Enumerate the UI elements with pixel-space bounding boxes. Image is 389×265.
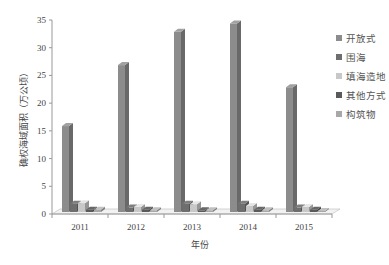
legend-label: 填海造地 — [346, 69, 386, 83]
legend-item: 填海造地 — [336, 66, 386, 85]
legend-swatch-icon — [336, 35, 342, 41]
x-tick-label: 2012 — [127, 222, 145, 232]
bar — [286, 84, 297, 212]
legend-swatch-icon — [336, 73, 342, 79]
legend-item: 开放式 — [336, 28, 386, 47]
legend-swatch-icon — [336, 54, 342, 60]
y-tick-label: 5 — [42, 181, 47, 191]
legend-label: 其他方式 — [346, 88, 386, 102]
bar — [174, 29, 185, 212]
x-tick-label: 2013 — [183, 222, 202, 232]
legend-label: 围海 — [346, 50, 366, 64]
y-axis-title: 确权海域面积（万公顷） — [18, 68, 29, 167]
x-axis-title: 年份 — [191, 239, 209, 250]
x-tick-label: 2011 — [71, 222, 89, 232]
y-tick-label: 15 — [37, 126, 47, 136]
y-tick-label: 0 — [42, 209, 47, 219]
legend: 开放式围海填海造地其他方式构筑物 — [336, 28, 386, 123]
legend-swatch-icon — [336, 92, 342, 98]
y-tick-label: 25 — [37, 70, 47, 80]
legend-item: 围海 — [336, 47, 386, 66]
legend-item: 其他方式 — [336, 85, 386, 104]
bar — [230, 21, 241, 212]
y-tick-label: 35 — [37, 15, 47, 25]
legend-item: 构筑物 — [336, 104, 386, 123]
plot-area: 0510152025303520112012201320142015 — [37, 15, 340, 232]
x-tick-label: 2014 — [239, 222, 258, 232]
y-tick-label: 10 — [37, 154, 47, 164]
bar — [118, 62, 129, 212]
y-tick-label: 30 — [37, 43, 47, 53]
x-tick-label: 2015 — [295, 222, 314, 232]
y-tick-label: 20 — [37, 98, 47, 108]
bar-chart: 0510152025303520112012201320142015 年份 确权… — [0, 0, 389, 265]
bar — [62, 123, 73, 212]
legend-label: 开放式 — [346, 31, 376, 45]
legend-swatch-icon — [336, 111, 342, 117]
legend-label: 构筑物 — [346, 107, 376, 121]
